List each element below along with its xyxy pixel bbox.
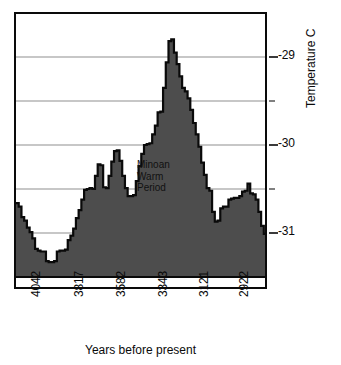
xtick-label-3817: 3817 (73, 253, 85, 297)
plot-frame (14, 12, 267, 289)
plot-area-svg (16, 14, 265, 287)
xtick-label-4042: 4042 (30, 253, 42, 297)
minoan-warm-period-annotation: Minoan Warm Period (137, 159, 170, 194)
ytick-label-minus29: -29 (278, 49, 295, 61)
y-axis-title: Temperature C (305, 0, 317, 108)
ytick-label-minus31: -31 (278, 225, 295, 237)
xtick-label-2922: 2922 (238, 253, 250, 297)
x-axis-title: Years before present (0, 344, 281, 357)
ytick-label-minus30: -30 (278, 137, 295, 149)
temperature-chart-figure: -29 -30 -31 Temperature C 4042 3817 3582… (0, 0, 341, 365)
xtick-label-3121: 3121 (198, 253, 210, 297)
axis-base-strip (16, 277, 265, 287)
xtick-label-3582: 3582 (115, 253, 127, 297)
xtick-label-3343: 3343 (157, 253, 169, 297)
